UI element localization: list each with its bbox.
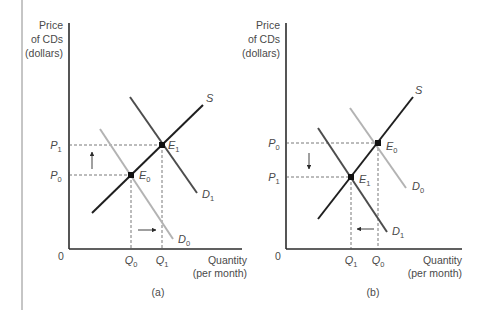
- quantity-label-q0: Q0: [372, 254, 385, 269]
- equilibrium-point-e1: [348, 174, 354, 180]
- supply-demand-diagram: Price of CDs (dollars) 0 P1 P0 Q0 Q1 S D…: [0, 0, 479, 320]
- equilibrium-label-e1: E1: [359, 173, 371, 188]
- demand-label-d1: D1: [202, 188, 214, 203]
- origin-label: 0: [58, 250, 64, 262]
- price-label-p1: P1: [50, 139, 62, 154]
- supply-label: S: [206, 92, 214, 104]
- panel-caption-b: (b): [367, 286, 380, 298]
- equilibrium-point-e1: [159, 142, 165, 148]
- y-axis-label-line3: (dollars): [25, 47, 63, 59]
- panel-a: Price of CDs (dollars) 0 P1 P0 Q0 Q1 S D…: [25, 19, 248, 298]
- equilibrium-label-e0: E0: [139, 169, 151, 184]
- x-axis-label-line2: (per month): [408, 267, 462, 279]
- equilibrium-point-e0: [128, 172, 134, 178]
- y-axis-label-line1: Price: [256, 19, 280, 31]
- demand-label-d1: D1: [392, 225, 404, 240]
- y-axis-label-line2: of CDs: [248, 33, 280, 45]
- quantity-label-q0: Q0: [125, 254, 138, 269]
- panel-b: Price of CDs (dollars) 0 P0 P1 Q1 Q0 S D…: [242, 19, 463, 298]
- price-label-p0: P0: [268, 137, 280, 152]
- equilibrium-label-e1: E1: [168, 139, 180, 154]
- origin-label: 0: [275, 250, 281, 262]
- price-label-p1: P1: [268, 171, 280, 186]
- x-axis-label-line1: Quantity: [423, 254, 463, 266]
- x-axis-label-line1: Quantity: [208, 254, 248, 266]
- y-axis-label-line1: Price: [39, 19, 63, 31]
- equilibrium-label-e0: E0: [386, 140, 398, 155]
- y-axis-label-line3: (dollars): [242, 47, 280, 59]
- price-label-p0: P0: [50, 169, 62, 184]
- demand-label-d0: D0: [178, 233, 190, 248]
- x-axis-label-line2: (per month): [193, 267, 247, 279]
- quantity-label-q1: Q1: [345, 254, 358, 269]
- equilibrium-point-e0: [375, 140, 381, 146]
- demand-label-d0: D0: [412, 180, 424, 195]
- supply-label: S: [415, 84, 423, 96]
- panel-caption-a: (a): [152, 286, 165, 298]
- quantity-label-q1: Q1: [156, 254, 169, 269]
- y-axis-label-line2: of CDs: [31, 33, 63, 45]
